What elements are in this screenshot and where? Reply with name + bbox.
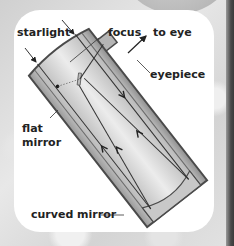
label-to-eye: to eye — [153, 27, 192, 39]
flat-mirror-leader — [50, 110, 58, 118]
label-flat-mirror-line1: flat — [22, 123, 43, 135]
label-flat-mirror-line2: mirror — [22, 137, 61, 149]
label-focus: focus — [108, 27, 141, 39]
label-starlight: starlight — [17, 27, 70, 39]
label-eyepiece: eyepiece — [150, 69, 205, 81]
eyepiece-leader — [137, 60, 150, 73]
label-curved-mirror: curved mirror — [31, 209, 116, 221]
telescope-tube — [26, 17, 218, 227]
starlight-arrow-2 — [25, 48, 36, 62]
